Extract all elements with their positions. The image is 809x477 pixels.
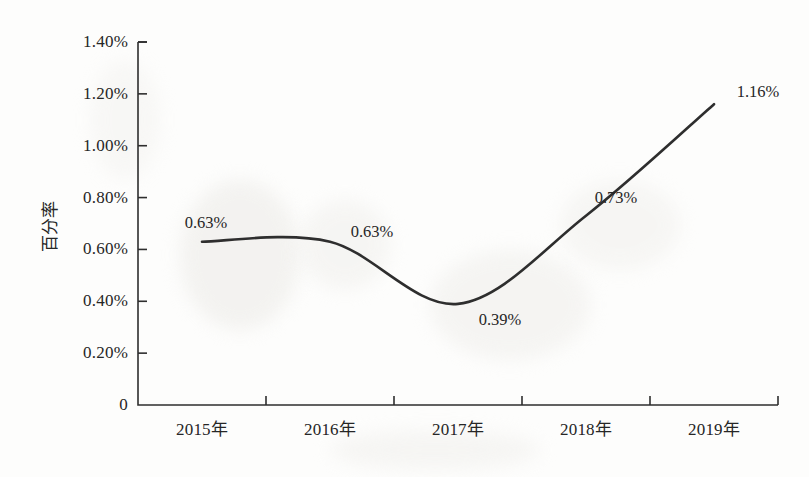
y-tick-label: 1.20% — [40, 84, 128, 104]
x-axis-ticks — [266, 396, 650, 405]
axis-lines — [138, 42, 778, 405]
data-point-label: 0.63% — [185, 213, 228, 233]
y-tick-label: 1.00% — [40, 136, 128, 156]
x-tick-label: 2018年 — [560, 415, 612, 440]
y-axis-title: 百分率 — [36, 178, 61, 274]
data-point-label: 0.73% — [595, 188, 638, 208]
data-point-label: 0.39% — [479, 310, 522, 330]
y-tick-label: 1.40% — [40, 32, 128, 52]
x-tick-label: 2017年 — [432, 415, 484, 440]
y-tick-label: 0.20% — [40, 343, 128, 363]
x-tick-label: 2019年 — [688, 415, 740, 440]
data-point-label: 0.63% — [351, 222, 394, 242]
x-tick-label: 2015年 — [176, 415, 228, 440]
chart-page: 00.20%0.40%0.60%0.80%1.00%1.20%1.40% 201… — [0, 0, 809, 477]
data-point-label: 1.16% — [737, 82, 780, 102]
x-tick-label: 2016年 — [304, 415, 356, 440]
y-tick-label: 0.40% — [40, 291, 128, 311]
y-tick-label: 0 — [40, 395, 128, 415]
y-axis-ticks — [138, 42, 147, 353]
